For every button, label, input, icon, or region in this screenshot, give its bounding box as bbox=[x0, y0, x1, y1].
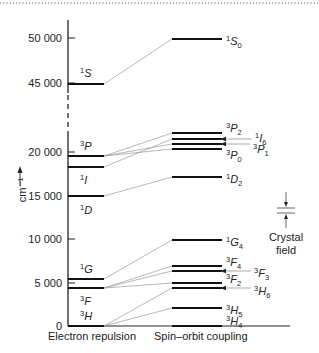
term-label-1D: 1D bbox=[80, 203, 92, 216]
term-label-1G4: 1G4 bbox=[226, 235, 243, 251]
term-label-1G: 1G bbox=[80, 262, 93, 275]
y-tick-label: 5 000 bbox=[34, 277, 62, 289]
crystal-field-label-line2: field bbox=[276, 244, 296, 256]
connector-lines bbox=[104, 39, 172, 326]
term-label-1D2: 1D2 bbox=[226, 172, 242, 188]
term-label-1I: 1I bbox=[80, 173, 87, 186]
y-tick-label: 50 000 bbox=[28, 32, 62, 44]
term-label-3F4: 3F4 bbox=[226, 255, 241, 271]
x-label-electron-repulsion: Electron repulsion bbox=[48, 330, 136, 342]
electron-repulsion-levels: 1S3P1I1D1G3F3H bbox=[68, 66, 104, 326]
y-tick-label: 15 000 bbox=[28, 190, 62, 202]
term-label-3H: 3H bbox=[80, 309, 92, 322]
term-label-1S: 1S bbox=[80, 66, 92, 79]
term-label-3P0: 3P0 bbox=[226, 148, 242, 164]
y-tick-label: 10 000 bbox=[28, 233, 62, 245]
arrow-left-icon bbox=[220, 286, 226, 290]
arrow-left-icon bbox=[220, 142, 226, 146]
term-label-3H6: 3H6 bbox=[254, 284, 270, 300]
term-label-3F: 3F bbox=[80, 294, 92, 307]
arrow-down-icon bbox=[284, 202, 288, 207]
crystal-field-label-line1: Crystal bbox=[269, 231, 303, 243]
y-tick-label: 20 000 bbox=[28, 146, 62, 158]
term-label-3P2: 3P2 bbox=[226, 121, 242, 137]
term-label-3F3: 3F3 bbox=[254, 266, 269, 282]
arrow-left-icon bbox=[220, 137, 226, 141]
energy-level-diagram: 50 00045 00020 00015 00010 0005 0000 cm⁻… bbox=[0, 0, 319, 353]
term-label-3F2: 3F2 bbox=[226, 272, 241, 288]
crystal-field-indicator: Crystal field bbox=[269, 192, 303, 256]
term-label-1S0: 1S0 bbox=[226, 34, 242, 50]
term-label-3P: 3P bbox=[80, 139, 92, 152]
y-axis-label: cm⁻¹ bbox=[16, 178, 28, 203]
y-tick-label: 45 000 bbox=[28, 77, 62, 89]
y-axis: 50 00045 00020 00015 00010 0005 0000 cm⁻… bbox=[16, 20, 75, 332]
x-label-spin-orbit-coupling: Spin–orbit coupling bbox=[154, 330, 248, 342]
spin-orbit-levels: 1S03P21I63P13P01D21G43F43F33F23H63H53H4 bbox=[172, 34, 270, 330]
